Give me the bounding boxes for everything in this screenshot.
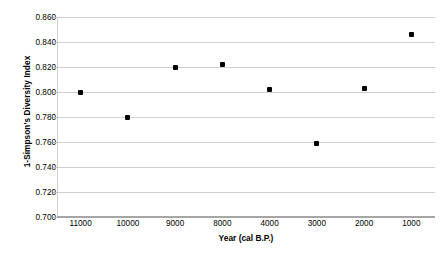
gridline — [57, 67, 435, 68]
gridline — [57, 117, 435, 118]
y-tick-mark — [53, 167, 57, 168]
x-axis-title: Year (cal B.P.) — [57, 233, 435, 243]
y-tick-mark — [53, 142, 57, 143]
data-point — [125, 115, 130, 120]
y-tick-label: 0.740 — [18, 163, 56, 172]
y-tick-label: 0.760 — [18, 138, 56, 147]
gridline — [57, 92, 435, 93]
data-point — [220, 62, 225, 67]
y-tick-label: 0.720 — [18, 188, 56, 197]
y-tick-label: 0.800 — [18, 88, 56, 97]
data-point — [78, 90, 83, 95]
y-tick-mark — [53, 67, 57, 68]
gridline — [57, 217, 435, 218]
y-tick-mark — [53, 117, 57, 118]
y-tick-label: 0.780 — [18, 113, 56, 122]
gridline — [57, 42, 435, 43]
data-point — [362, 86, 367, 91]
data-point — [409, 32, 414, 37]
gridline — [57, 192, 435, 193]
y-tick-label: 0.860 — [18, 13, 56, 22]
plot-area — [57, 17, 435, 217]
data-point — [267, 87, 272, 92]
y-tick-label: 0.840 — [18, 38, 56, 47]
y-tick-mark — [53, 92, 57, 93]
scatter-chart: 1-Simpson's Diversity Index 0.8600.8400.… — [0, 0, 446, 254]
gridline — [57, 17, 435, 18]
gridline — [57, 142, 435, 143]
y-tick-mark — [53, 217, 57, 218]
x-axis-tick-labels: 1100010000900080004000300020001000 — [57, 219, 435, 233]
y-tick-mark — [53, 42, 57, 43]
y-tick-mark — [53, 192, 57, 193]
data-point — [173, 65, 178, 70]
data-point — [314, 141, 319, 146]
y-tick-mark — [53, 17, 57, 18]
x-tick-label: 1000 — [381, 219, 441, 229]
y-tick-label: 0.820 — [18, 63, 56, 72]
gridline — [57, 167, 435, 168]
y-axis-tick-labels: 0.8600.8400.8200.8000.7800.7600.7400.720… — [18, 0, 56, 254]
